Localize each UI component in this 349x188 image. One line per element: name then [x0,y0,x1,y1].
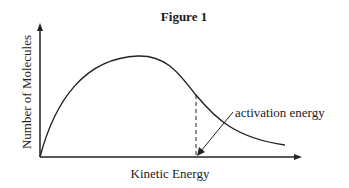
x-axis-label: Kinetic Energy [131,166,210,181]
chart-title: Figure 1 [161,9,207,24]
annotation-label: activation energy [235,105,325,120]
y-axis-arrow-icon [37,23,43,31]
figure: Figure 1 activation energy Kinetic Energ… [0,0,349,188]
y-axis-label: Number of Molecules [19,35,34,149]
x-axis-arrow-icon [294,154,302,160]
chart-svg: Figure 1 activation energy Kinetic Energ… [0,0,349,188]
